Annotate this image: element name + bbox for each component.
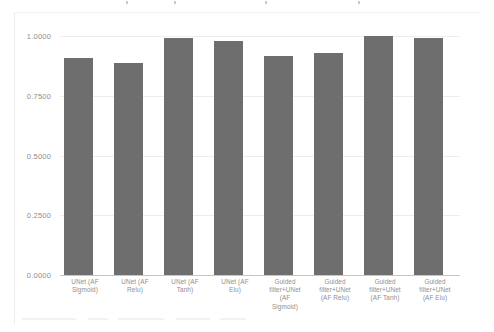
- bar-group: [260, 36, 309, 275]
- bar-group: [160, 36, 209, 275]
- y-axis-tick-label: 0.5000: [27, 151, 51, 160]
- plot-area: 1.00000.75000.50000.25000.0000: [60, 36, 460, 275]
- x-axis-tick-label-line: (AF Elu): [406, 294, 464, 302]
- y-axis-tick-label: 0.7500: [27, 91, 51, 100]
- bar-group: [310, 36, 359, 275]
- bar[interactable]: [264, 56, 293, 275]
- bar[interactable]: [314, 53, 343, 275]
- bar[interactable]: [64, 58, 93, 275]
- bar[interactable]: [114, 63, 143, 275]
- bar-group: [210, 36, 259, 275]
- scan-smudge: [22, 318, 76, 320]
- bar[interactable]: [414, 38, 443, 275]
- bar[interactable]: [164, 38, 193, 275]
- scan-smudge: [118, 318, 164, 320]
- y-axis-tick-label: 0.2500: [27, 211, 51, 220]
- bar-group: [60, 36, 109, 275]
- bar-group: [410, 36, 459, 275]
- bar[interactable]: [214, 41, 243, 275]
- x-axis-tick-label-line: Sigmoid): [256, 303, 314, 311]
- scan-smudge: [220, 318, 246, 320]
- x-axis-tick-labels: UNet (AFSigmoid)UNet (AFRelu)UNet (AFTan…: [60, 278, 460, 330]
- bar-group: [360, 36, 409, 275]
- bars-layer: [60, 36, 460, 275]
- x-axis-tick-label-line: filter+UNet: [406, 286, 464, 294]
- scan-smudge: [88, 318, 108, 320]
- y-axis-tick-label: 1.0000: [27, 32, 51, 41]
- bar-chart: 1.00000.75000.50000.25000.0000 UNet (AFS…: [0, 0, 494, 332]
- bar[interactable]: [364, 36, 393, 275]
- y-axis-tick-label: 0.0000: [27, 271, 51, 280]
- scan-smudge: [176, 318, 210, 320]
- x-axis-tick-label: Guidedfilter+UNet(AF Elu): [406, 278, 464, 303]
- gridline-0.0000: 0.0000: [60, 275, 460, 276]
- x-axis-tick-label-line: Guided: [406, 278, 464, 286]
- bar-group: [110, 36, 159, 275]
